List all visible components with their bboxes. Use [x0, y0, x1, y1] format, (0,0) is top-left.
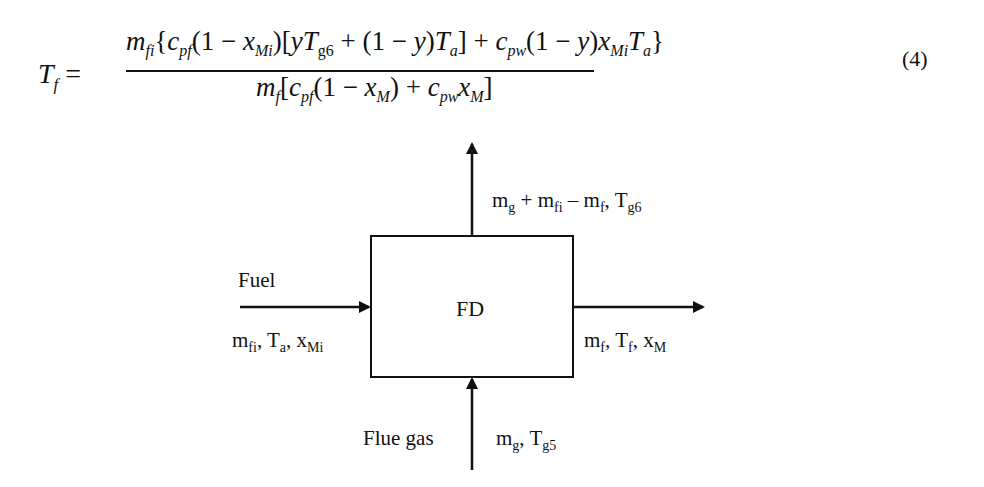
top-output-label: mg + mfi – mf, Tg6 — [492, 188, 642, 216]
flue-gas-label: Flue gas — [363, 426, 434, 451]
fuel-label: Fuel — [238, 268, 275, 293]
box-label: FD — [456, 296, 484, 322]
right-output-label: mf, Tf, xM — [584, 328, 666, 356]
flue-gas-properties-label: mg, Tg5 — [496, 426, 556, 454]
fuel-properties-label: mfi, Ta, xMi — [232, 328, 323, 356]
fd-diagram — [0, 0, 984, 487]
